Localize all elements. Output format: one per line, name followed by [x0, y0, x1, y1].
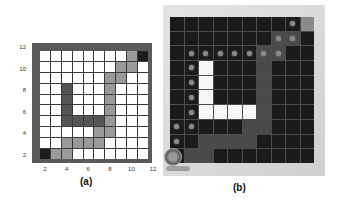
grid-cell [185, 135, 199, 149]
grid-cell [286, 105, 300, 119]
grid-cell [214, 149, 228, 163]
grid-cell [127, 149, 137, 159]
grid-cell [116, 84, 126, 94]
grid-cell [127, 84, 137, 94]
x-tick-label: 4 [61, 166, 73, 172]
waypoint-dot-icon [174, 139, 179, 144]
grid-cell [228, 76, 242, 90]
grid-cell [40, 73, 50, 83]
grid-cell [138, 138, 148, 148]
grid-cell [40, 149, 50, 159]
x-tick-label: 8 [104, 166, 116, 172]
grid-cell [105, 127, 115, 137]
robot-base-icon [166, 166, 190, 171]
waypoint-dot-icon [174, 124, 179, 129]
grid-cell [51, 127, 61, 137]
grid-cell [214, 76, 228, 90]
grid-cell [214, 105, 228, 119]
grid-cell [243, 120, 257, 134]
grid-cell [127, 116, 137, 126]
grid-cell [243, 76, 257, 90]
waypoint-dot-icon [189, 110, 194, 115]
waypoint-dot-icon [189, 51, 194, 56]
grid-cell [199, 61, 213, 75]
grid-cell [51, 73, 61, 83]
grid-cell [94, 73, 104, 83]
grid-cell [62, 116, 72, 126]
grid-cell [84, 95, 94, 105]
grid-cell [301, 105, 315, 119]
grid-cell [105, 73, 115, 83]
grid-cell [185, 76, 199, 90]
grid-cell [243, 149, 257, 163]
grid-cell [127, 138, 137, 148]
grid-cell [73, 138, 83, 148]
robot-icon [164, 148, 182, 166]
grid-cell [40, 95, 50, 105]
y-tick-label: 2 [14, 152, 26, 158]
grid-cell [228, 149, 242, 163]
x-tick-label: 6 [82, 166, 94, 172]
grid-cell [105, 51, 115, 61]
waypoint-dot-icon [290, 21, 295, 26]
grid-cell [170, 61, 184, 75]
grid-cell [228, 46, 242, 60]
grid-cell [286, 149, 300, 163]
grid-cell [116, 149, 126, 159]
grid-cell [127, 127, 137, 137]
grid-cell [84, 116, 94, 126]
grid-cell [243, 17, 257, 31]
grid-cell [105, 116, 115, 126]
grid-cell [257, 120, 271, 134]
grid-cell [94, 51, 104, 61]
grid-cell [94, 84, 104, 94]
grid-cell [214, 61, 228, 75]
grid-cell [138, 73, 148, 83]
grid-cell [40, 51, 50, 61]
grid-cell [138, 149, 148, 159]
grid-cell [170, 17, 184, 31]
grid-cell [116, 51, 126, 61]
grid-cell [272, 76, 286, 90]
grid-cell [51, 138, 61, 148]
y-tick-label: 10 [14, 66, 26, 72]
grid-cell [138, 95, 148, 105]
grid-cell [127, 62, 137, 72]
grid-cell [301, 149, 315, 163]
grid-cell [286, 135, 300, 149]
grid-cell [228, 105, 242, 119]
grid-cell [272, 149, 286, 163]
grid-cell [257, 61, 271, 75]
grid-cell [185, 105, 199, 119]
grid-cell [301, 120, 315, 134]
grid-cell [301, 32, 315, 46]
grid-cell [199, 32, 213, 46]
grid-cell [170, 120, 184, 134]
grid-cell [199, 135, 213, 149]
grid-cell [84, 149, 94, 159]
grid-cell [199, 46, 213, 60]
x-tick-label: 12 [147, 166, 159, 172]
grid-cell [185, 120, 199, 134]
grid-cell [286, 76, 300, 90]
grid-cell [214, 90, 228, 104]
grid-cell [62, 105, 72, 115]
grid-cell [185, 32, 199, 46]
grid-cell [214, 17, 228, 31]
grid-cell [257, 32, 271, 46]
grid-cell [116, 116, 126, 126]
grid-cell [105, 105, 115, 115]
grid-cell [138, 51, 148, 61]
caption-b: (b) [233, 182, 246, 193]
waypoint-dot-icon [189, 80, 194, 85]
grid-cell [62, 51, 72, 61]
grid-cell [199, 17, 213, 31]
grid-cell [214, 135, 228, 149]
grid-cell [138, 62, 148, 72]
grid-cell [84, 51, 94, 61]
grid-cell [105, 138, 115, 148]
grid-cell [257, 76, 271, 90]
grid-cell [73, 116, 83, 126]
grid-cell [286, 17, 300, 31]
grid-cell [272, 61, 286, 75]
